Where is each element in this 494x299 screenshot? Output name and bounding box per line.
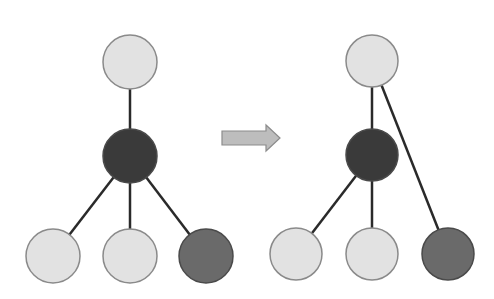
transform-arrow-icon	[222, 125, 280, 151]
before-node-leaf-right	[179, 229, 233, 283]
after-node-root	[346, 35, 398, 87]
before-node-leaf-center	[103, 229, 157, 283]
after-node-leaf-center	[346, 228, 398, 280]
tree-diagram	[0, 0, 494, 299]
after-node-middle	[346, 129, 398, 181]
before-node-leaf-left	[26, 229, 80, 283]
after-tree-nodes	[270, 35, 474, 280]
after-node-leaf-right	[422, 228, 474, 280]
after-node-leaf-left	[270, 228, 322, 280]
before-node-middle	[103, 129, 157, 183]
before-node-root	[103, 35, 157, 89]
before-tree-nodes	[26, 35, 233, 283]
right-arrow-icon	[222, 125, 280, 151]
